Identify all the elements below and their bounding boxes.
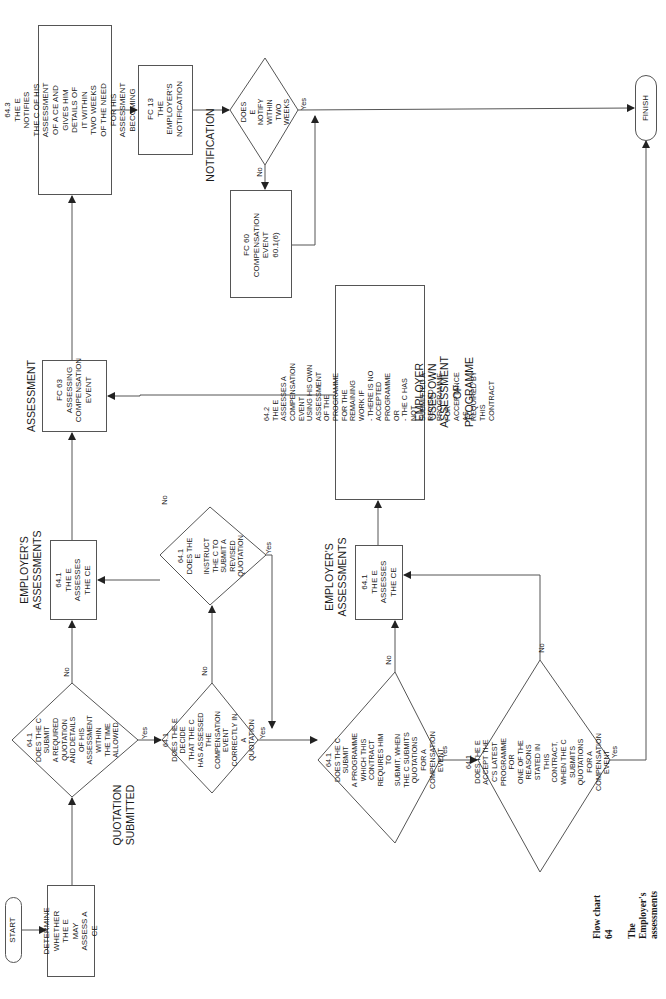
branch-yes-label: Yes [440,746,449,758]
branch-no-label: No [384,655,393,665]
section-label-notification: NOTIFICATION [204,108,217,181]
assess-ce-bottom-text: 64.1 THE E ASSESSES THE CE [360,561,398,604]
notify-64-3-text: 64.3 THE E NOTIFIES THE C OF HIS ASSESSM… [3,83,147,138]
decision-instruct-revised-text: 64.1 DOES THE E INSTRUCT THE C TO SUBMIT… [177,535,246,577]
start-label: START [8,917,18,942]
section-label-employer-uses-own: EMPLOYER USES OWN ASSESSMENT OF PROGRAMM… [413,356,476,428]
branch-yes-label: Yes [299,98,308,110]
section-label-employers-assessments-bottom: EMPLOYER'S ASSESSMENTS [323,538,348,617]
branch-yes-label: Yes [264,542,273,554]
branch-no-label: No [537,643,546,653]
fc63-text: FC 63 ASSESSING COMPENSATION EVENT [55,358,93,422]
branch-no-label: No [255,167,264,177]
branch-no-label: No [200,666,209,676]
finish-label: FINISH [641,95,651,121]
decision-accept-programme-text: 64.1 DOES THE E ACCEPT THE C'S LATEST PR… [465,733,612,791]
fc13-text: FC 13 THE EMPLOYER'S NOTIFICATION [146,81,184,137]
assess-ce-top-text: 64.1 THE E ASSESSES THE CE [54,559,92,602]
branch-no-label: No [62,667,71,677]
decision-submit-programme-text: 64.1 DOES THE C SUBMIT A PROGRAMME WHICH… [325,731,446,789]
caption-subtitle: The Employer's assessments [627,891,661,939]
branch-yes-label: Yes [258,727,267,739]
figure-caption: Flow chart 64 The Employer's assessments [581,891,666,939]
caption-title: Flow chart 64 [593,891,616,939]
determine-text: DETERMINE WHETHER THE E MAY ASSESS A CE [42,907,100,954]
flowchart-64-employers-assessments: START FINISH DETERMINE WHETHER THE E MAY… [0,0,666,999]
decision-notify-two-weeks-text: DOES E NOTIFY WITHIN TWO WEEKS [240,99,292,125]
branch-no-label: No [160,495,169,505]
branch-yes-label: Yes [140,727,149,739]
fc60-text: FC 60 COMPENSATION EVENT 60.1(6) [242,213,280,277]
section-label-quotation-submitted: QUOTATION SUBMITTED [111,785,136,846]
decision-submit-quotation-text: 64.1 DOES THE C SUBMIT A REQUIRED QUOTAT… [26,716,121,765]
section-label-assessment: ASSESSMENT [25,360,38,432]
section-label-employers-assessments-top: EMPLOYER'S ASSESSMENTS [18,531,43,610]
decision-assessed-correctly-text: 64.1 DOES THE E DECIDE THAT THE C HAS AS… [162,711,257,769]
branch-yes-label: Yes [610,746,619,758]
